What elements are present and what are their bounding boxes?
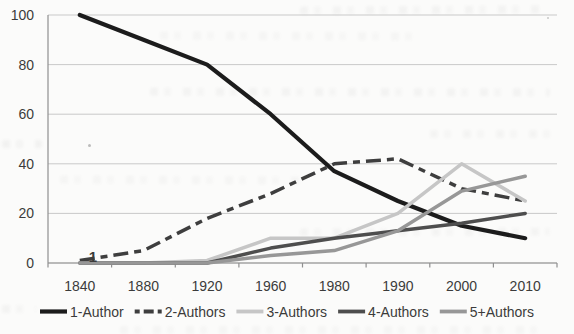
series-line-2-authors — [80, 159, 525, 261]
y-tick-label-0: 0 — [26, 255, 34, 271]
x-tick-label-1840: 1840 — [64, 278, 95, 294]
y-tick-label-80: 80 — [18, 57, 34, 73]
legend-label-2-authors: 2-Authors — [165, 304, 226, 320]
legend-label-4-authors: 4-Authors — [368, 304, 429, 320]
legend-label-1-author: 1-Author — [70, 304, 124, 320]
scanned-chart-page: 0204060801001840188019201960198019902000… — [0, 0, 574, 334]
x-tick-label-1980: 1980 — [319, 278, 350, 294]
stray-digit-annotation: 1 — [89, 248, 97, 265]
x-tick-label-1920: 1920 — [192, 278, 223, 294]
x-tick-label-1960: 1960 — [255, 278, 286, 294]
series-line-5-authors — [80, 176, 525, 263]
x-tick-label-1990: 1990 — [382, 278, 413, 294]
line-chart-svg: 0204060801001840188019201960198019902000… — [0, 0, 574, 334]
y-tick-label-100: 100 — [11, 7, 35, 23]
x-tick-label-1880: 1880 — [128, 278, 159, 294]
x-tick-label-2010: 2010 — [510, 278, 541, 294]
legend-label-3-authors: 3-Authors — [266, 304, 327, 320]
x-tick-label-2000: 2000 — [446, 278, 477, 294]
y-tick-label-60: 60 — [18, 106, 34, 122]
y-tick-label-20: 20 — [18, 205, 34, 221]
legend-label-5-authors: 5+Authors — [470, 304, 534, 320]
y-tick-label-40: 40 — [18, 156, 34, 172]
series-line-1-author — [80, 15, 525, 238]
